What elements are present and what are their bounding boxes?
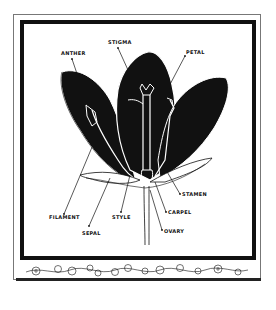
label-petal: PETAL	[186, 49, 205, 55]
flower-diagram: ANTHER STIGMA PETAL STAMEN CARPEL FILAME…	[0, 0, 276, 310]
label-filament: FILAMENT	[49, 214, 80, 220]
label-anther: ANTHER	[61, 50, 86, 56]
label-style: STYLE	[112, 214, 131, 220]
stem	[144, 186, 149, 245]
label-stigma: STIGMA	[108, 39, 132, 45]
label-sepal: SEPAL	[82, 230, 101, 236]
label-ovary: OVARY	[164, 228, 184, 234]
floral-vine-decoration	[26, 265, 248, 277]
label-carpel: CARPEL	[168, 209, 192, 215]
label-stamen: STAMEN	[182, 191, 207, 197]
